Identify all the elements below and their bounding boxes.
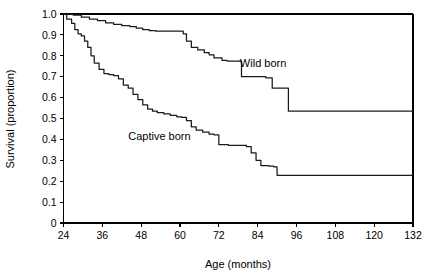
x-tick-label: 84 xyxy=(252,229,264,241)
series-label-wild-born: Wild born xyxy=(240,57,286,69)
x-tick-label: 60 xyxy=(174,229,186,241)
y-tick-label: 0.7 xyxy=(42,70,57,82)
y-axis-title: Survival (proportion) xyxy=(4,69,16,168)
y-tick-label: 0.4 xyxy=(42,133,57,145)
y-tick-label: 0.8 xyxy=(42,50,57,62)
x-axis-title: Age (months) xyxy=(205,258,271,270)
x-tick-label: 72 xyxy=(213,229,225,241)
x-tick-label: 96 xyxy=(291,229,303,241)
x-tick-label: 36 xyxy=(96,229,108,241)
survival-plot: 00.10.20.30.40.50.60.70.80.91.0 24364860… xyxy=(0,0,432,277)
y-tick-label: 0.6 xyxy=(42,91,57,103)
y-tick-label: 0.9 xyxy=(42,29,57,41)
y-tick-label: 0.5 xyxy=(42,112,57,124)
y-tick-label: 0.1 xyxy=(42,196,57,208)
survival-chart-figure: 00.10.20.30.40.50.60.70.80.91.0 24364860… xyxy=(0,0,432,277)
x-tick-label: 120 xyxy=(365,229,383,241)
x-tick-label: 24 xyxy=(58,229,70,241)
series-label-captive-born: Captive born xyxy=(128,130,190,142)
x-tick-label: 132 xyxy=(404,229,422,241)
y-tick-label: 0.2 xyxy=(42,175,57,187)
y-tick-label: 0.3 xyxy=(42,154,57,166)
y-tick-label: 0 xyxy=(51,217,57,229)
y-tick-label: 1.0 xyxy=(42,8,57,20)
x-tick-label: 48 xyxy=(135,229,147,241)
x-tick-label: 108 xyxy=(327,229,345,241)
